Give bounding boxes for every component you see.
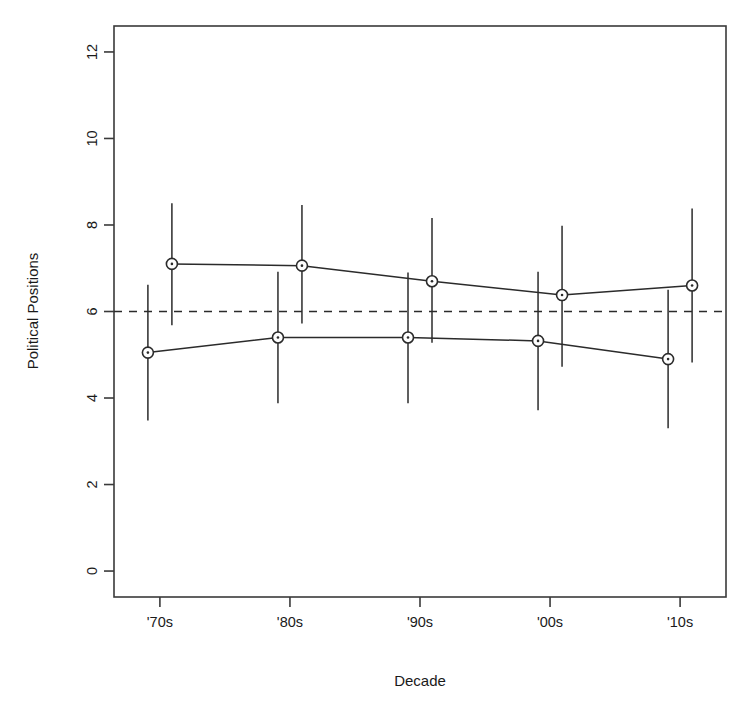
data-point-center-dot: [301, 264, 304, 267]
data-point-center-dot: [667, 358, 670, 361]
y-tick-label: 0: [84, 567, 100, 575]
y-tick-label: 6: [84, 307, 100, 315]
chart-figure: 024681012 '70s'80s'90s'00s'10s Political…: [0, 0, 755, 710]
x-tick-label: '70s: [147, 614, 173, 630]
error-bars: [148, 203, 692, 428]
data-point-center-dot: [171, 263, 174, 266]
x-tick-label: '90s: [407, 614, 433, 630]
data-point-center-dot: [691, 284, 694, 287]
data-point-center-dot: [147, 351, 150, 354]
x-axis-title: Decade: [394, 672, 446, 689]
political-positions-chart: 024681012 '70s'80s'90s'00s'10s Political…: [0, 0, 755, 710]
y-tick-label: 2: [84, 480, 100, 488]
x-tick-label: '00s: [537, 614, 563, 630]
y-axis-title: Political Positions: [24, 253, 41, 370]
y-tick-label: 12: [84, 44, 100, 60]
x-axis: '70s'80s'90s'00s'10s: [147, 597, 693, 630]
data-point-center-dot: [537, 340, 540, 343]
y-tick-label: 8: [84, 221, 100, 229]
y-tick-label: 4: [84, 394, 100, 402]
data-point-center-dot: [277, 336, 280, 339]
y-tick-label: 10: [84, 130, 100, 146]
y-axis: 024681012: [84, 44, 114, 575]
x-tick-label: '10s: [667, 614, 693, 630]
x-tick-label: '80s: [277, 614, 303, 630]
data-point-center-dot: [431, 280, 434, 283]
data-point-center-dot: [407, 336, 410, 339]
data-point-center-dot: [561, 294, 564, 297]
